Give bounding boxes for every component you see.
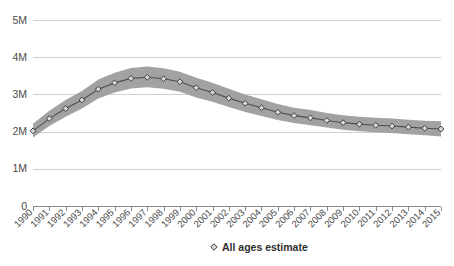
chart-legend: All ages estimate [211, 241, 308, 253]
y-tick-label-2M: 2M [12, 125, 27, 137]
line-chart: 01M2M3M4M5M 1990199119921993199419951996… [0, 0, 454, 266]
y-tick-label-4M: 4M [12, 51, 27, 63]
chart-container: 01M2M3M4M5M 1990199119921993199419951996… [0, 0, 454, 266]
y-tick-label-5M: 5M [12, 14, 27, 26]
y-tick-label-1M: 1M [12, 162, 27, 174]
y-tick-label-3M: 3M [12, 88, 27, 100]
legend-label-all-ages-estimate: All ages estimate [222, 241, 308, 253]
